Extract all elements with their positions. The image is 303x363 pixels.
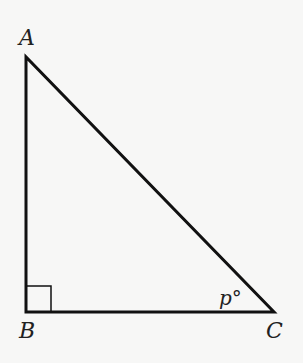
triangle-diagram: A B C p°	[0, 0, 303, 363]
vertex-label-c: C	[266, 318, 283, 343]
vertex-label-a: A	[17, 25, 35, 50]
angle-label-p: p°	[219, 286, 242, 310]
triangle-abc	[26, 57, 274, 312]
right-angle-marker	[26, 286, 51, 312]
vertex-label-b: B	[18, 318, 35, 343]
